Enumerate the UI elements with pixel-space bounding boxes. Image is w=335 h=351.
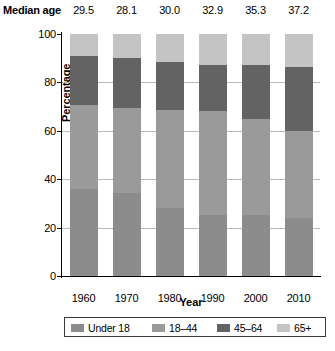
- legend-label: 45–64: [234, 322, 262, 334]
- median-age-value-1990: 32.9: [195, 4, 231, 16]
- bar-segment-2000-65-: [242, 34, 270, 65]
- plot-area: Percentage 02040608010019601970198019902…: [62, 34, 320, 276]
- y-tick-20: [57, 228, 62, 229]
- median-age-header: Median age 29.528.130.032.935.337.2: [0, 4, 335, 20]
- bar-1960: [70, 34, 98, 276]
- bar-segment-2000-under-18: [242, 215, 270, 276]
- y-tick-label-0: 0: [24, 271, 56, 282]
- legend-label: Under 18: [88, 322, 130, 334]
- y-tick-80: [57, 82, 62, 83]
- chart-legend: Under 1818–4445–6465+: [64, 317, 326, 337]
- bar-2010: [285, 34, 313, 276]
- bar-segment-2000-45-64: [242, 65, 270, 118]
- legend-swatch-icon: [277, 324, 290, 332]
- x-axis-title: Year: [62, 296, 320, 308]
- median-age-value-1980: 30.0: [152, 4, 188, 16]
- legend-swatch-icon: [71, 324, 84, 332]
- x-axis-line: [61, 276, 321, 277]
- bar-segment-1980-18-44: [156, 110, 184, 209]
- legend-item-under-18[interactable]: Under 18: [71, 322, 130, 334]
- bar-2000: [242, 34, 270, 276]
- median-age-value-1960: 29.5: [66, 4, 102, 16]
- bar-segment-1990-under-18: [199, 215, 227, 276]
- y-tick-60: [57, 131, 62, 132]
- bar-segment-2000-18-44: [242, 119, 270, 215]
- bar-1990: [199, 34, 227, 276]
- legend-item-65-[interactable]: 65+: [277, 322, 311, 334]
- legend-label: 65+: [294, 322, 311, 334]
- bar-segment-1970-18-44: [113, 108, 141, 193]
- legend-item-45-64[interactable]: 45–64: [217, 322, 262, 334]
- median-age-value-2010: 37.2: [281, 4, 317, 16]
- bar-segment-2010-65-: [285, 34, 313, 67]
- bar-segment-1960-65-: [70, 34, 98, 56]
- bar-segment-1980-45-64: [156, 62, 184, 109]
- median-age-value-2000: 35.3: [238, 4, 274, 16]
- y-tick-label-40: 40: [24, 174, 56, 185]
- gridline-40: [62, 179, 320, 180]
- y-tick-100: [57, 34, 62, 35]
- bar-segment-2010-45-64: [285, 67, 313, 131]
- stacked-bar-chart: Percentage 02040608010019601970198019902…: [0, 22, 335, 312]
- y-tick-label-60: 60: [24, 126, 56, 137]
- bar-segment-1980-65-: [156, 34, 184, 62]
- y-tick-label-100: 100: [24, 29, 56, 40]
- median-age-label: Median age: [3, 4, 61, 16]
- bar-segment-1960-18-44: [70, 105, 98, 188]
- bar-segment-1990-18-44: [199, 111, 227, 215]
- legend-swatch-icon: [217, 324, 230, 332]
- bar-1980: [156, 34, 184, 276]
- bar-segment-2010-18-44: [285, 131, 313, 218]
- bar-segment-1970-45-64: [113, 58, 141, 108]
- gridline-20: [62, 228, 320, 229]
- gridline-80: [62, 82, 320, 83]
- bar-segment-1970-under-18: [113, 193, 141, 276]
- bar-segment-1970-65-: [113, 34, 141, 58]
- bar-segment-1960-45-64: [70, 56, 98, 105]
- median-age-value-1970: 28.1: [109, 4, 145, 16]
- y-tick-40: [57, 179, 62, 180]
- bar-1970: [113, 34, 141, 276]
- y-tick-label-20: 20: [24, 223, 56, 234]
- legend-swatch-icon: [152, 324, 165, 332]
- bar-segment-1980-under-18: [156, 208, 184, 276]
- y-tick-0: [57, 276, 62, 277]
- legend-item-18-44[interactable]: 18–44: [152, 322, 197, 334]
- bar-segment-1990-45-64: [199, 65, 227, 110]
- legend-label: 18–44: [169, 322, 197, 334]
- bar-segment-1960-under-18: [70, 189, 98, 276]
- y-tick-label-80: 80: [24, 77, 56, 88]
- gridline-60: [62, 131, 320, 132]
- bar-segment-2010-under-18: [285, 218, 313, 276]
- bar-segment-1990-65-: [199, 34, 227, 65]
